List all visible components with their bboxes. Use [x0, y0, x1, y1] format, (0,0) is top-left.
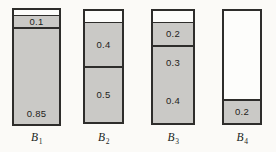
- segment-value-label: 0.1: [30, 17, 44, 27]
- bar-label-subscript: 4: [244, 137, 248, 146]
- bar-segment-b1-0.1: 0.1: [14, 16, 59, 29]
- bar-segment-b4-0.2: 0.2: [224, 101, 260, 123]
- bar-label-b3: B3: [168, 131, 179, 143]
- bar-label-letter: B: [168, 131, 175, 143]
- bar-segment-unshaded-b2: [85, 11, 122, 23]
- bar-segment-b3-0.3: 0.3: [153, 47, 193, 80]
- bar-label-b2: B2: [98, 131, 109, 143]
- bar-segment-b1-0.85: 0.85: [14, 29, 59, 124]
- bar-label-b1: B1: [31, 131, 42, 143]
- bar-label-b4: B4: [237, 131, 248, 143]
- stacked-bar-b3: 0.20.30.4: [151, 9, 195, 125]
- bar-segment-unshaded-b3: [153, 11, 193, 23]
- segment-value-label: 0.4: [97, 40, 111, 50]
- bar-label-letter: B: [98, 131, 105, 143]
- stacked-bar-b2: 0.40.5: [83, 9, 124, 124]
- segment-value-label: 0.3: [166, 58, 180, 68]
- figure-canvas: 0.10.85B10.40.5B20.20.30.4B30.2B4: [0, 0, 276, 152]
- stacked-bar-b1: 0.10.85: [12, 8, 61, 126]
- bar-label-letter: B: [237, 131, 244, 143]
- bar-segment-b3-0.2: 0.2: [153, 23, 193, 47]
- bar-segment-b2-0.4: 0.4: [85, 23, 122, 68]
- bar-segment-unshaded-b4: [224, 11, 260, 101]
- bar-label-subscript: 2: [106, 137, 110, 146]
- bar-label-letter: B: [31, 131, 38, 143]
- bar-segment-b3-0.4: 0.4: [153, 79, 193, 123]
- stacked-bar-b4: 0.2: [222, 9, 262, 125]
- bar-label-subscript: 1: [39, 137, 43, 146]
- segment-value-label: 0.85: [27, 109, 46, 119]
- bar-label-subscript: 3: [175, 137, 179, 146]
- segment-value-label: 0.5: [97, 90, 111, 100]
- bar-segment-b2-0.5: 0.5: [85, 68, 122, 122]
- segment-value-label: 0.2: [166, 29, 180, 39]
- segment-value-label: 0.2: [235, 107, 249, 117]
- segment-value-label: 0.4: [166, 96, 180, 106]
